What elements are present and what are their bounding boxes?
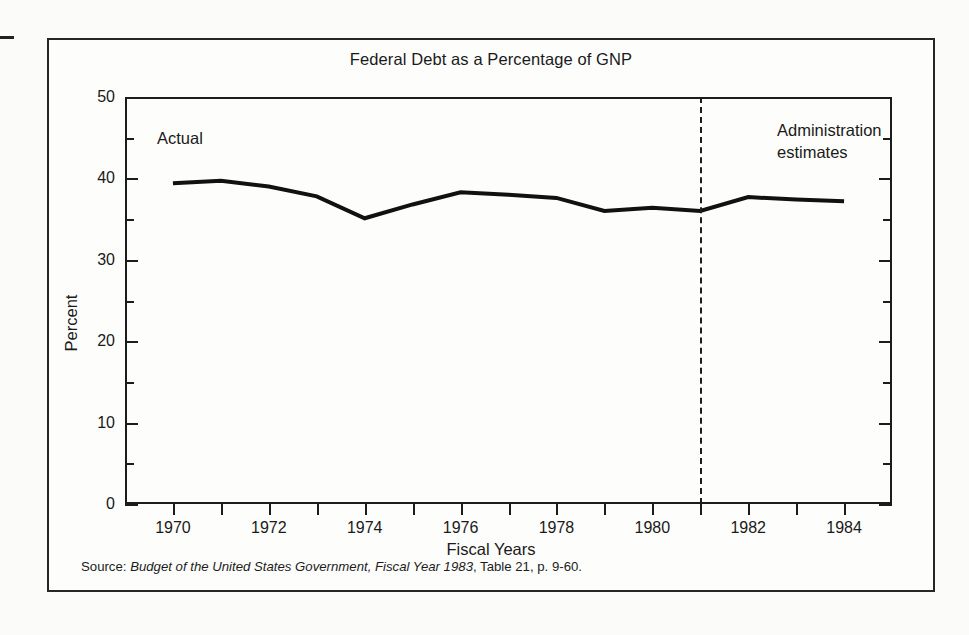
chart-title: Federal Debt as a Percentage of GNP xyxy=(49,50,933,69)
x-axis-title: Fiscal Years xyxy=(49,540,933,559)
x-tick-1983 xyxy=(796,504,798,515)
x-tick-1978 xyxy=(556,504,558,515)
x-tick-1982 xyxy=(748,504,750,515)
y-tick-label-10: 10 xyxy=(97,414,115,432)
x-tick-label-1978: 1978 xyxy=(539,519,575,537)
x-tick-1971 xyxy=(221,504,223,515)
x-tick-label-1974: 1974 xyxy=(347,519,383,537)
x-tick-1975 xyxy=(413,504,415,515)
y-tick-minor-35 xyxy=(125,219,134,221)
y-tick-minor-15 xyxy=(883,382,892,384)
annotation-actual: Actual xyxy=(157,128,203,150)
y-tick-major-30 xyxy=(125,260,138,262)
source-citation: , Table 21, p. 9-60. xyxy=(473,559,582,574)
y-tick-major-20 xyxy=(879,341,892,343)
source-label: Source: xyxy=(81,559,130,574)
x-tick-1976 xyxy=(461,504,463,515)
x-tick-label-1970: 1970 xyxy=(155,519,191,537)
source-note: Source: Budget of the United States Gove… xyxy=(81,559,582,574)
x-tick-1970 xyxy=(173,504,175,515)
y-tick-minor-25 xyxy=(125,301,134,303)
x-tick-1981 xyxy=(700,504,702,515)
y-axis-title: Percent xyxy=(62,295,81,352)
y-tick-major-0 xyxy=(879,504,892,506)
x-tick-label-1980: 1980 xyxy=(635,519,671,537)
y-tick-major-50 xyxy=(125,97,138,99)
y-tick-minor-35 xyxy=(883,219,892,221)
y-tick-major-50 xyxy=(879,97,892,99)
y-tick-label-0: 0 xyxy=(106,495,115,513)
y-tick-minor-5 xyxy=(883,463,892,465)
x-tick-label-1976: 1976 xyxy=(443,519,479,537)
y-tick-minor-15 xyxy=(125,382,134,384)
y-tick-minor-45 xyxy=(883,138,892,140)
estimates-divider-line xyxy=(700,97,702,504)
x-tick-1974 xyxy=(365,504,367,515)
x-tick-label-1984: 1984 xyxy=(826,519,862,537)
x-tick-1984 xyxy=(844,504,846,515)
x-tick-1979 xyxy=(604,504,606,515)
x-tick-1973 xyxy=(317,504,319,515)
y-tick-minor-45 xyxy=(125,138,134,140)
x-tick-1980 xyxy=(652,504,654,515)
y-tick-label-50: 50 xyxy=(97,88,115,106)
y-tick-label-20: 20 xyxy=(97,332,115,350)
y-tick-major-20 xyxy=(125,341,138,343)
y-tick-major-10 xyxy=(879,423,892,425)
y-tick-major-10 xyxy=(125,423,138,425)
source-publication: Budget of the United States Government, … xyxy=(130,559,473,574)
y-tick-major-40 xyxy=(879,178,892,180)
annotation-administration-estimates: Administration estimates xyxy=(777,120,882,164)
y-tick-major-0 xyxy=(125,504,138,506)
y-tick-major-30 xyxy=(879,260,892,262)
y-tick-label-40: 40 xyxy=(97,169,115,187)
x-tick-1977 xyxy=(509,504,511,515)
x-tick-label-1972: 1972 xyxy=(251,519,287,537)
y-tick-label-30: 30 xyxy=(97,251,115,269)
y-tick-minor-25 xyxy=(883,301,892,303)
crop-registration-mark xyxy=(0,36,14,39)
figure-frame: Federal Debt as a Percentage of GNP Perc… xyxy=(47,38,935,592)
x-tick-label-1982: 1982 xyxy=(730,519,766,537)
y-tick-major-40 xyxy=(125,178,138,180)
y-tick-minor-5 xyxy=(125,463,134,465)
x-tick-1972 xyxy=(269,504,271,515)
